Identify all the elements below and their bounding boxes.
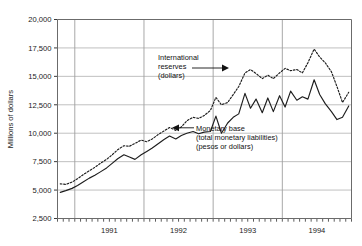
y-axis-tick-label: 7,500 <box>32 157 51 166</box>
x-axis-tick-label: 1992 <box>170 226 187 235</box>
chart-canvas: 20,00017,50015,00012,50010,0007,5005,000… <box>0 0 362 246</box>
chart-figure: 20,00017,50015,00012,50010,0007,5005,000… <box>0 0 362 246</box>
y-axis-title: Millions of dollars <box>6 90 15 148</box>
monetary-base-label-line-1: (total monetary liabilities) <box>196 133 278 142</box>
series-line-international-reserves <box>60 49 348 184</box>
x-axis-tick-label: 1994 <box>308 226 325 235</box>
monetary-base-label-line-2: (pesos or dollars) <box>196 142 253 151</box>
y-axis-tick-label: 5,000 <box>32 186 51 195</box>
x-axis-tick-label: 1991 <box>101 226 118 235</box>
international-reserves-label-line-1: reserves <box>158 62 187 71</box>
y-axis-tick-label: 20,000 <box>28 15 51 24</box>
x-axis-tick-label: 1993 <box>239 226 256 235</box>
international-reserves-label-line-0: International <box>158 53 199 62</box>
international-reserves-label-line-2: (dollars) <box>158 71 185 80</box>
y-axis-tick-label: 10,000 <box>28 129 51 138</box>
y-axis-tick-label: 12,500 <box>28 101 51 110</box>
y-axis-tick-label: 17,500 <box>28 44 51 53</box>
y-axis-tick-label: 15,000 <box>28 72 51 81</box>
monetary-base-label-line-0: Monetary base <box>196 124 245 133</box>
international-reserves-arrow-icon <box>222 65 229 72</box>
y-axis-tick-label: 2,500 <box>32 214 51 223</box>
